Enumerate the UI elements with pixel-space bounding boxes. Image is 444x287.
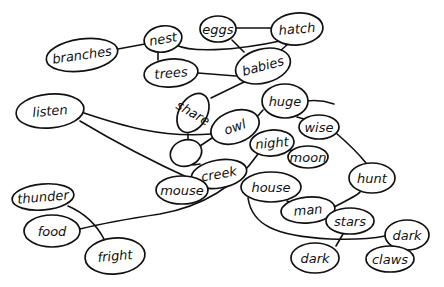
node-thunder: thunder — [11, 181, 75, 212]
node-hatch: hatch — [270, 11, 325, 47]
faint-top-text — [180, 0, 260, 4]
node-label: claws — [372, 252, 408, 267]
node-claws: claws — [366, 246, 414, 272]
node-listen: listen — [15, 91, 86, 131]
node-ellipse — [167, 135, 206, 170]
node-label: house — [251, 180, 290, 195]
concept-map-canvas: branchesnesteggshatchtreesbabieslistensh… — [0, 0, 444, 287]
node-eggs: eggs — [200, 16, 236, 42]
node-label: mouse — [160, 183, 204, 198]
node-hunt: hunt — [349, 163, 395, 193]
node-label: dark — [392, 228, 422, 243]
node-label: food — [38, 224, 67, 239]
node-label: hatch — [278, 20, 316, 38]
node-label: moon — [290, 150, 327, 165]
node-nest: nest — [142, 23, 184, 55]
node-food: food — [24, 215, 80, 247]
edge-wise-hunt — [336, 133, 366, 163]
node-branches: branches — [44, 34, 120, 76]
node-label: huge — [269, 94, 302, 109]
node-blank — [167, 135, 206, 170]
edge-trees-babies — [198, 73, 236, 76]
node-label: wise — [304, 120, 333, 135]
edge-huge-wise — [297, 117, 304, 119]
edge-branches-nest — [118, 44, 145, 49]
edge-babies-share — [211, 81, 246, 98]
edge-eggs-babies — [232, 40, 244, 52]
node-label: eggs — [202, 22, 234, 37]
concept-map-svg: branchesnesteggshatchtreesbabieslistensh… — [0, 0, 444, 287]
node-trees: trees — [143, 57, 199, 90]
node-dark2: dark — [291, 243, 339, 273]
nodes-layer: branchesnesteggshatchtreesbabieslistensh… — [11, 11, 429, 277]
node-label: night — [255, 134, 291, 152]
node-wise: wise — [299, 115, 339, 139]
node-label: man — [293, 201, 323, 218]
node-label: stars — [334, 214, 366, 229]
node-label: listen — [32, 102, 69, 120]
node-stars: stars — [326, 208, 374, 234]
edge-man-hunt — [334, 192, 360, 207]
edge-huge-offscreen — [307, 101, 334, 104]
node-label: fright — [97, 247, 134, 265]
node-mouse: mouse — [156, 176, 208, 204]
node-house: house — [241, 172, 301, 202]
node-label: dark — [300, 251, 330, 266]
node-label: trees — [154, 64, 189, 82]
node-fright: fright — [84, 235, 147, 276]
node-label: hunt — [357, 171, 388, 186]
node-huge: huge — [262, 84, 308, 118]
node-moon: moon — [288, 146, 328, 168]
